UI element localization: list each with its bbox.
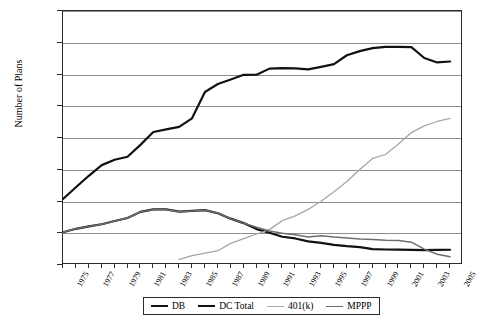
series-line-db (63, 209, 450, 250)
plot-area (62, 10, 462, 264)
legend-swatch-icon (198, 305, 215, 307)
chart-legend: DBDC Total401(k)MPPP (143, 297, 380, 315)
x-tick-label: 1979 (127, 270, 143, 288)
legend-swatch-icon (267, 306, 284, 307)
x-tick-label: 2005 (462, 270, 478, 288)
x-tick-label: 1989 (256, 270, 272, 288)
x-tick-label: 1987 (230, 270, 246, 288)
x-tick-label: 1991 (281, 270, 297, 288)
x-tick-label: 1985 (204, 270, 220, 288)
series-line-dc-total (63, 47, 450, 199)
x-tick-label: 1997 (359, 270, 375, 288)
x-tick-label: 1981 (152, 270, 168, 288)
x-tick-label: 1975 (75, 270, 91, 288)
legend-item[interactable]: DC Total (198, 300, 254, 312)
legend-label: DC Total (219, 300, 254, 312)
series-line-401-k (179, 118, 450, 259)
series-lines (63, 11, 463, 265)
legend-label: MPPP (347, 300, 371, 312)
x-tick-label: 1983 (178, 270, 194, 288)
legend-item[interactable]: 401(k) (267, 300, 313, 312)
x-tick-label: 2003 (436, 270, 452, 288)
legend-item[interactable]: DB (151, 300, 185, 312)
legend-label: 401(k) (288, 300, 313, 312)
x-tick-label: 1977 (101, 270, 117, 288)
legend-swatch-icon (151, 305, 168, 307)
y-axis-title: Number of Plans (13, 24, 24, 164)
x-tick-label: 2001 (410, 270, 426, 288)
legend-label: DB (172, 300, 185, 312)
x-tick-label: 1995 (333, 270, 349, 288)
legend-item[interactable]: MPPP (326, 300, 371, 312)
x-tick-label: 1993 (307, 270, 323, 288)
x-tick-label: 1999 (385, 270, 401, 288)
legend-swatch-icon (326, 306, 343, 307)
